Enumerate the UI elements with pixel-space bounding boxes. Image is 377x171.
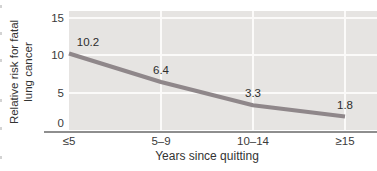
scan-artifact [0,99,2,102]
scan-artifact [0,5,2,8]
x-tick-label: 5–9 [131,134,191,148]
data-point-label: 10.2 [65,35,111,49]
y-axis-title: Relative risk for fatal lung cancer [7,12,37,132]
scan-artifact [0,32,2,35]
data-point-label: 6.4 [138,63,184,77]
y-tick-label: 5 [26,86,64,100]
x-tick-label: ≤5 [39,134,99,148]
scan-artifact [0,127,2,130]
y-tick-label: 0 [26,116,64,130]
x-axis-line [44,131,377,133]
plot-area [69,11,377,130]
data-line [69,11,377,130]
y-axis-title-line2: lung cancer [21,12,35,132]
x-tick-label: 10–14 [223,134,283,148]
y-tick-label: 15 [26,11,64,25]
x-axis-title: Years since quitting [69,149,345,163]
data-point-label: 3.3 [230,86,276,100]
scan-artifact [0,156,2,159]
line-chart-figure: Relative risk for fatal lung cancer Year… [0,0,377,171]
scan-artifact [0,59,2,62]
data-point-label: 1.8 [322,98,368,112]
x-tick-label: ≥15 [315,134,375,148]
y-tick-label: 10 [26,48,64,62]
y-axis-title-line1: Relative risk for fatal [7,12,21,132]
